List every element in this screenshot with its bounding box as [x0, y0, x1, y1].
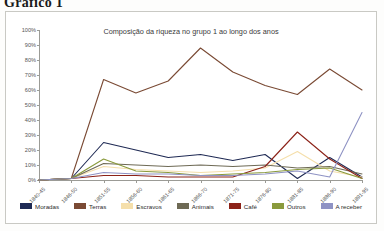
- legend-label: Outros: [287, 203, 306, 210]
- y-tick-label: 30%: [25, 132, 36, 138]
- legend-item[interactable]: Café: [229, 203, 257, 210]
- plot-area: 100%90%80%70%60%50%40%30%20%10%0% 1840-4…: [39, 30, 362, 180]
- y-tick-label: 80%: [25, 57, 36, 63]
- y-tick-label: 40%: [25, 117, 36, 123]
- y-tick-label: 100%: [22, 27, 36, 33]
- x-tick-mark: [71, 180, 72, 183]
- legend-label: Café: [244, 203, 257, 210]
- x-tick-mark: [233, 180, 234, 183]
- legend-item[interactable]: Terras: [74, 203, 106, 210]
- series-lines: [39, 30, 362, 180]
- legend-item[interactable]: A receber: [321, 203, 362, 210]
- legend-item[interactable]: Moradas: [20, 203, 59, 210]
- chart-figure: Composição da riqueza no grupo 1 ao long…: [5, 11, 377, 224]
- chart-legend: MoradasTerrasEscravosAnimaisCaféOutrosA …: [16, 198, 366, 214]
- x-tick-mark: [362, 180, 363, 183]
- legend-swatch: [272, 203, 284, 209]
- x-tick-mark: [330, 180, 331, 183]
- figure-heading: Gráfico 1: [4, 0, 63, 11]
- x-tick-mark: [168, 180, 169, 183]
- x-tick-mark: [265, 180, 266, 183]
- y-tick-label: 0%: [28, 177, 36, 183]
- y-tick-label: 70%: [25, 72, 36, 78]
- legend-swatch: [74, 203, 86, 209]
- legend-label: Animais: [192, 203, 214, 210]
- legend-swatch: [229, 203, 241, 209]
- legend-item[interactable]: Escravos: [121, 203, 161, 210]
- y-tick-label: 60%: [25, 87, 36, 93]
- y-tick-label: 50%: [25, 102, 36, 108]
- legend-swatch: [321, 203, 333, 209]
- legend-swatch: [177, 203, 189, 209]
- x-tick-mark: [136, 180, 137, 183]
- legend-swatch: [121, 203, 133, 209]
- legend-label: Moradas: [35, 203, 59, 210]
- y-tick-label: 20%: [25, 147, 36, 153]
- plot-inner: 100%90%80%70%60%50%40%30%20%10%0% 1840-4…: [39, 30, 362, 180]
- legend-swatch: [20, 203, 32, 209]
- legend-label: A receber: [336, 203, 362, 210]
- legend-item[interactable]: Outros: [272, 203, 306, 210]
- x-tick-mark: [297, 180, 298, 183]
- legend-label: Escravos: [136, 203, 161, 210]
- legend-item[interactable]: Animais: [177, 203, 214, 210]
- y-tick-label: 90%: [25, 42, 36, 48]
- x-tick-mark: [104, 180, 105, 183]
- series-line: [39, 113, 362, 181]
- x-tick-mark: [201, 180, 202, 183]
- y-tick-label: 10%: [25, 162, 36, 168]
- page-root: Gráfico 1 Composição da riqueza no grupo…: [0, 0, 384, 231]
- legend-label: Terras: [89, 203, 106, 210]
